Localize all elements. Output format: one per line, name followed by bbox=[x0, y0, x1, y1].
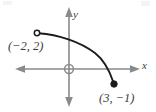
y-axis-down-arrowhead-icon bbox=[65, 97, 73, 107]
x-axis-left-arrowhead-icon bbox=[15, 65, 25, 73]
closed-point-label: (3, −1) bbox=[99, 92, 135, 105]
y-axis-label: y bbox=[73, 9, 78, 20]
x-axis-label: x bbox=[142, 60, 147, 71]
top-right-artifact bbox=[141, 1, 150, 6]
open-point-label: (−2, 2) bbox=[8, 40, 44, 53]
y-axis-up-arrowhead-icon bbox=[65, 7, 73, 17]
top-left-artifact bbox=[3, 1, 12, 5]
function-curve bbox=[39, 33, 114, 82]
x-axis-right-arrowhead-icon bbox=[130, 65, 140, 73]
coordinate-plane-figure: (−2, 2) (3, −1) x y bbox=[0, 0, 156, 112]
open-endpoint-marker bbox=[34, 30, 39, 35]
closed-endpoint-marker bbox=[111, 81, 117, 87]
